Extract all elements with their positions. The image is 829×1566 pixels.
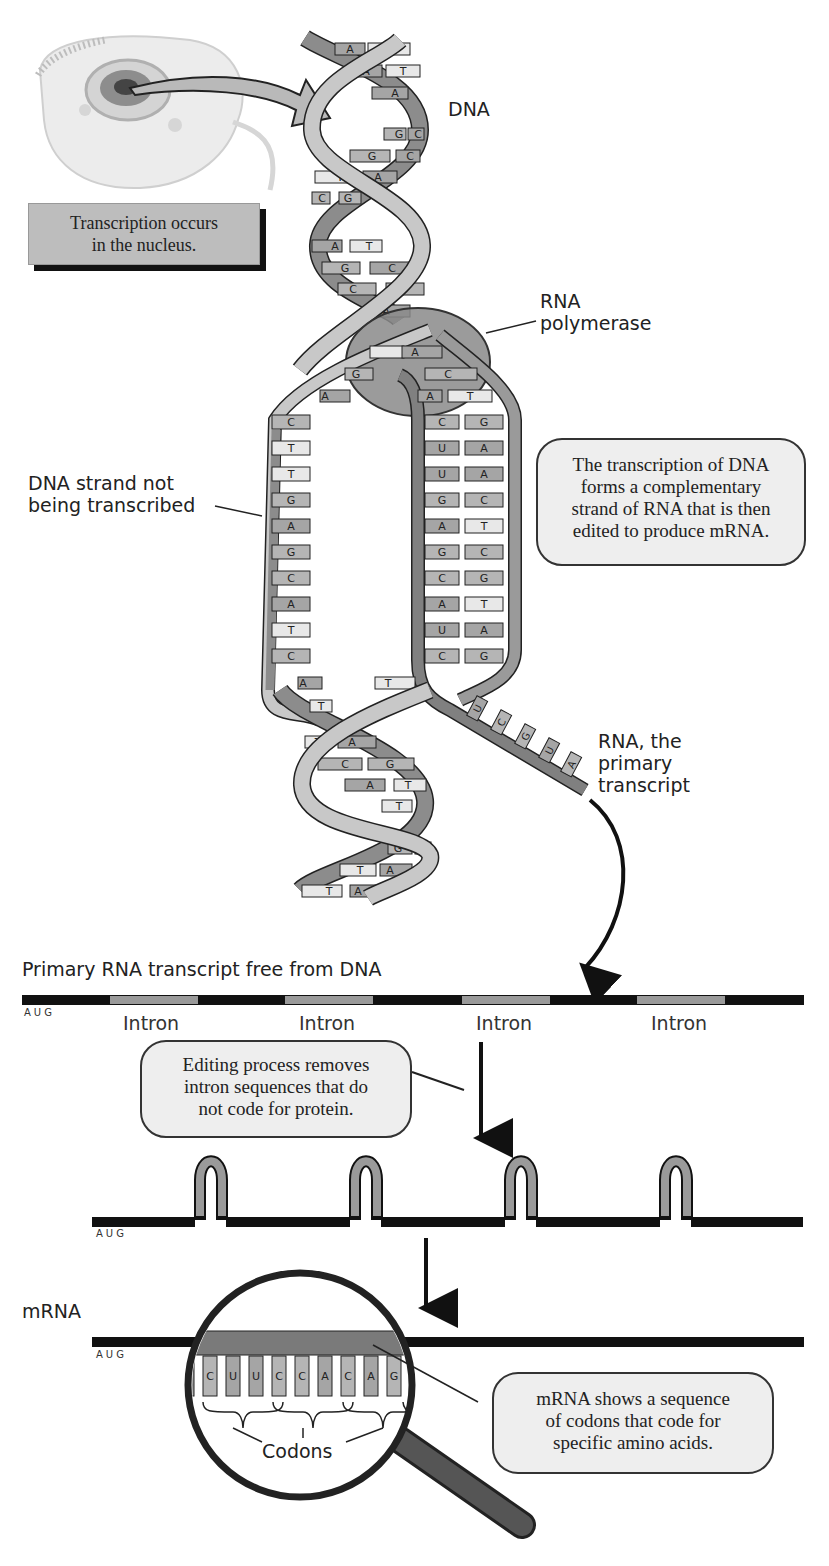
svg-text:C: C [298,1370,306,1383]
svg-text:G: G [390,1370,399,1383]
callout-line: specific amino acids. [494,1432,772,1454]
svg-text:C: C [438,572,446,585]
nontranscribed-strand-label: DNA strand not being transcribed [28,472,195,516]
svg-text:T: T [356,864,364,877]
callout-line: mRNA shows a sequence [494,1388,772,1410]
intron-label-3: Intron [476,1012,532,1034]
callout-line: The transcription of DNA [538,454,804,476]
editing-callout: Editing process removes intron sequences… [140,1040,412,1138]
svg-text:G: G [395,128,404,141]
svg-text:A: A [391,87,399,100]
svg-text:A: A [386,864,394,877]
svg-text:T: T [325,885,333,898]
svg-text:C: C [388,262,396,275]
svg-text:C: C [438,416,446,429]
svg-text:U: U [229,1370,237,1383]
callout-line: not code for protein. [142,1098,410,1120]
svg-text:G: G [438,494,447,507]
svg-text:A: A [346,43,354,56]
svg-text:T: T [395,800,403,813]
to-primary-transcript-arrow [585,800,623,968]
magnifying-glass: CUUCCACAG [180,1273,522,1525]
svg-text:C: C [438,650,446,663]
nontranscribed-label-line2: being transcribed [28,494,195,516]
codons-callout: mRNA shows a sequence of codons that cod… [492,1372,774,1474]
svg-text:A: A [438,520,446,533]
svg-text:G: G [344,192,353,205]
svg-text:A: A [299,677,307,690]
nontranscribed-label-line1: DNA strand not [28,472,195,494]
svg-text:G: G [480,416,489,429]
transcription-callout: The transcription of DNA forms a complem… [536,438,806,566]
dna-double-helix-bottom: A T T T A C G A T T G C T A T A [280,677,431,898]
transcription-diagram: A T A T A G C G C T A C G A T G C C G A [0,0,829,1566]
svg-text:C: C [341,758,349,771]
svg-text:A: A [426,390,434,403]
svg-text:C: C [344,1370,352,1383]
svg-text:A: A [354,885,362,898]
svg-text:G: G [386,758,395,771]
svg-text:A: A [287,520,295,533]
intron-label-4: Intron [651,1012,707,1034]
intron-label-1: Intron [123,1012,179,1034]
svg-text:A: A [480,624,488,637]
svg-text:G: G [352,368,361,381]
svg-text:G: G [287,494,296,507]
svg-text:C: C [287,416,295,429]
rna-polymerase-label: RNA polymerase [540,290,651,334]
svg-text:C: C [444,368,452,381]
mrna-label: mRNA [22,1300,81,1322]
svg-text:A: A [331,240,339,253]
svg-text:G: G [480,650,489,663]
aug-label-1: AUG [24,1007,55,1018]
aug-label-2: AUG [96,1228,127,1239]
primary-transcript-bar [22,995,804,1005]
rna-polymerase-label-line2: polymerase [540,312,651,334]
primary-transcript-line1: RNA, the [598,730,690,752]
primary-free-label: Primary RNA transcript free from DNA [22,958,381,980]
svg-text:T: T [287,468,295,481]
svg-text:T: T [287,442,295,455]
callout-line: of codons that code for [494,1410,772,1432]
svg-text:C: C [414,128,422,141]
svg-text:T: T [466,390,474,403]
svg-text:A: A [321,1370,329,1383]
callout-line: intron sequences that do [142,1076,410,1098]
dna-label: DNA [448,98,490,120]
primary-transcript-line3: transcript [598,774,690,796]
svg-text:A: A [480,442,488,455]
svg-text:T: T [384,677,392,690]
callout-line: Editing process removes [142,1054,410,1076]
svg-text:U: U [252,1370,260,1383]
callout-line: strand of RNA that is then [538,498,804,520]
svg-text:G: G [341,262,350,275]
aug-label-3: AUG [96,1349,127,1360]
svg-text:U: U [438,442,446,455]
svg-text:A: A [367,1370,375,1383]
svg-text:T: T [287,624,295,637]
callout-line: forms a complementary [538,476,804,498]
svg-text:A: A [480,468,488,481]
svg-text:T: T [317,700,325,713]
svg-text:G: G [368,150,377,163]
svg-text:C: C [318,192,326,205]
svg-text:C: C [406,150,414,163]
svg-text:G: G [480,572,489,585]
svg-text:C: C [349,283,357,296]
svg-text:C: C [287,650,295,663]
nucleus-caption-line2: in the nucleus. [29,234,259,256]
svg-text:A: A [348,736,356,749]
svg-text:A: A [366,779,374,792]
cell-illustration [38,36,273,190]
svg-text:C: C [206,1370,214,1383]
primary-transcript-label: RNA, the primary transcript [598,730,690,796]
svg-text:T: T [365,240,373,253]
svg-text:T: T [399,65,407,78]
svg-text:T: T [480,598,488,611]
nucleus-caption-box: Transcription occurs in the nucleus. [28,203,260,265]
codons-label: Codons [262,1440,333,1462]
callout-line: edited to produce mRNA. [538,520,804,542]
svg-text:U: U [438,624,446,637]
svg-text:A: A [287,598,295,611]
svg-text:A: A [321,390,329,403]
